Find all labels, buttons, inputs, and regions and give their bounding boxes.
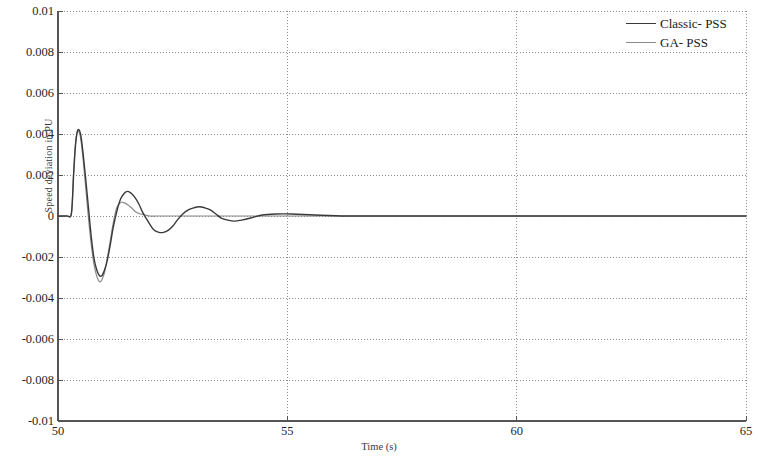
x-tick-label: 50	[52, 424, 65, 439]
series-line-classic-pss	[58, 130, 746, 277]
y-tick-label: 0.008	[2, 45, 54, 60]
legend-label: Classic- PSS	[660, 16, 727, 32]
legend-item: Classic- PSS	[626, 14, 758, 33]
y-tick-label: 0.01	[2, 4, 54, 19]
legend-line-swatch	[626, 23, 656, 24]
y-tick-label: -0.008	[2, 373, 54, 388]
legend-item: GA- PSS	[626, 33, 758, 52]
y-tick-label: -0.004	[2, 291, 54, 306]
x-tick-label: 55	[281, 424, 294, 439]
y-tick-label: -0.01	[2, 414, 54, 429]
chart-legend: Classic- PSSGA- PSS	[626, 14, 758, 52]
legend-label: GA- PSS	[660, 35, 708, 51]
y-tick-label: -0.006	[2, 332, 54, 347]
x-tick-label: 65	[740, 424, 753, 439]
x-axis-title: Time (s)	[0, 441, 758, 452]
plot-canvas	[0, 0, 758, 458]
chart-figure: 0.010.0080.0060.0040.0020-0.002-0.004-0.…	[0, 0, 758, 458]
y-axis-title: Speed deviation in PU	[43, 66, 54, 266]
data-series	[58, 130, 746, 282]
legend-line-swatch	[626, 42, 656, 43]
x-tick-label: 60	[510, 424, 523, 439]
series-line-ga-pss	[58, 131, 746, 282]
